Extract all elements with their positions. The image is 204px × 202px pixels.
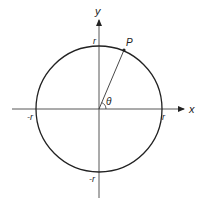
- x-axis-label: x: [188, 103, 195, 115]
- y-axis-label: y: [94, 5, 102, 17]
- intercept-left-label: -r: [27, 112, 34, 122]
- intercept-right-label: r: [162, 112, 166, 122]
- intercept-bottom-label: -r: [89, 174, 96, 184]
- radius-line: [99, 50, 124, 109]
- intercept-top-label: r: [93, 36, 97, 46]
- polar-circle-diagram: y x r r -r -r P θ: [0, 0, 204, 202]
- angle-theta-label: θ: [106, 96, 112, 107]
- point-p-label: P: [126, 37, 133, 48]
- point-p: [122, 48, 125, 51]
